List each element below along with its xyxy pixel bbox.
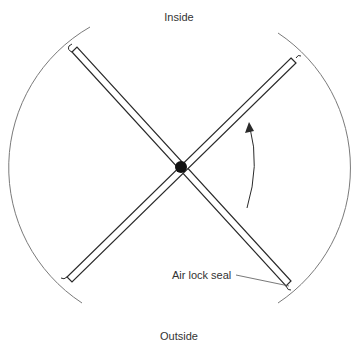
- rotation-arrow-icon: [245, 122, 254, 208]
- revolving-door-diagram: Inside Air lock seal Outside: [0, 0, 358, 349]
- diagram-graphic: [0, 0, 358, 349]
- pivot-hub: [175, 161, 187, 173]
- housing-arc-left: [9, 27, 90, 303]
- air-lock-seal-label: Air lock seal: [172, 270, 231, 281]
- inside-label: Inside: [0, 12, 358, 23]
- outside-label: Outside: [0, 331, 358, 342]
- housing-arc-right: [278, 33, 350, 303]
